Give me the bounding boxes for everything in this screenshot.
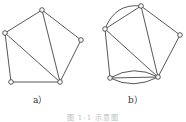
- figure-a: [3, 8, 84, 85]
- vertex: [40, 8, 45, 13]
- edge: [5, 33, 11, 82]
- vertex: [79, 38, 84, 43]
- graph-diagram: [0, 0, 186, 122]
- vertex: [108, 76, 113, 81]
- edge: [105, 6, 141, 29]
- edge: [105, 29, 158, 77]
- vertex: [9, 80, 14, 85]
- vertex: [3, 31, 8, 36]
- edge: [60, 40, 81, 82]
- figure-b-label: b）: [128, 93, 143, 106]
- vertex: [139, 4, 144, 9]
- figure-caption: 图 1-1 示意图: [0, 112, 186, 122]
- vertex: [156, 75, 161, 80]
- edge: [158, 35, 180, 77]
- figure-a-label: a）: [33, 93, 47, 106]
- vertex: [103, 27, 108, 32]
- edge: [105, 29, 110, 78]
- edge: [42, 10, 81, 40]
- vertex: [178, 33, 183, 38]
- edge: [5, 10, 42, 33]
- edge: [110, 77, 158, 78]
- edge: [5, 33, 60, 82]
- vertex: [58, 80, 63, 85]
- edge: [42, 10, 60, 82]
- figure-b: [103, 4, 183, 84]
